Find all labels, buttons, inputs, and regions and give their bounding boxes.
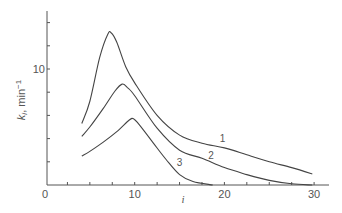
x-axis-title: i [181,193,184,205]
y-tick-label: 10 [33,63,45,75]
chart: 010203010 123 i ki, min−1 [0,0,342,213]
x-tick-label: 10 [129,188,141,200]
x-tick-label: 30 [308,188,320,200]
curve-labels: 123 [177,133,226,168]
curve-3 [82,118,213,185]
y-axis-title-rest: , min [15,89,27,113]
curve-label-1: 1 [220,133,226,144]
x-tick-label: 20 [218,188,230,200]
axis-tick-labels: 010203010 [33,63,320,200]
curve-2 [82,84,312,185]
curve-label-2: 2 [208,150,214,161]
y-axis-title: ki, min−1 [14,79,29,120]
curves [82,32,312,185]
axes [47,11,329,185]
curve-1 [82,32,312,174]
curve-label-3: 3 [177,157,183,168]
x-tick-label: 0 [42,188,48,200]
y-axis-title-sup: −1 [14,79,23,89]
